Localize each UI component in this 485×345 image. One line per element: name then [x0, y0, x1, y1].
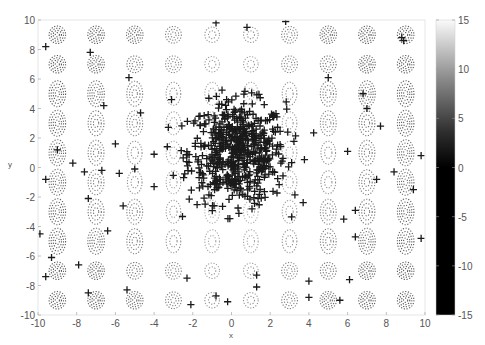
x-tick-label: -8	[72, 318, 81, 329]
y-tick-label: -8	[26, 281, 35, 292]
y-tick-label: -6	[26, 251, 35, 262]
x-tick-label: -6	[111, 318, 120, 329]
y-tick-label: -10	[21, 310, 36, 321]
colorbar-tick-label: -15	[458, 310, 473, 321]
x-tick-label: -4	[150, 318, 159, 329]
colorbar-tick-label: 15	[458, 15, 470, 26]
x-tick-label: 6	[345, 318, 351, 329]
x-tick-label: 0	[229, 318, 235, 329]
x-tick-label: 8	[384, 318, 390, 329]
y-tick-label: -2	[26, 192, 35, 203]
colorbar-tick-label: 5	[458, 113, 464, 124]
y-tick-label: 4	[29, 104, 35, 115]
y-tick-label: 0	[29, 163, 35, 174]
contour-scatter-chart: -10-8-6-4-20246810 -10-8-6-4-20246810 x …	[0, 0, 485, 345]
x-tick-label: 10	[419, 318, 431, 329]
y-tick-label: 2	[29, 133, 35, 144]
colorbar: -15-10-5051015	[436, 15, 473, 321]
colorbar-tick-label: 10	[458, 64, 470, 75]
y-tick-label: 8	[29, 45, 35, 56]
x-tick-label: -2	[188, 318, 197, 329]
y-axis-label: y	[8, 160, 12, 169]
plot-area	[36, 18, 425, 315]
colorbar-tick-label: -10	[458, 261, 473, 272]
y-tick-label: 6	[29, 74, 35, 85]
y-tick-label: 10	[24, 15, 36, 26]
y-tick-label: -4	[26, 222, 35, 233]
colorbar-tick-label: 0	[458, 163, 464, 174]
x-axis-label: x	[229, 331, 233, 340]
colorbar-tick-label: -5	[458, 212, 467, 223]
x-tick-label: 4	[306, 318, 312, 329]
x-tick-label: 2	[267, 318, 273, 329]
